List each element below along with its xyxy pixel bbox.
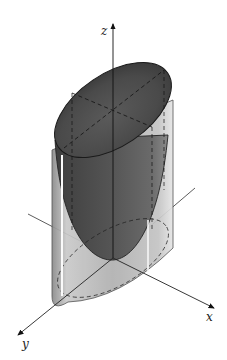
x-axis-label: x [206,311,213,323]
z-axis-label: z [101,25,107,37]
3d-surface-diagram: z y x [0,0,227,360]
y-axis-label: y [22,338,29,350]
diagram-canvas [0,0,227,360]
